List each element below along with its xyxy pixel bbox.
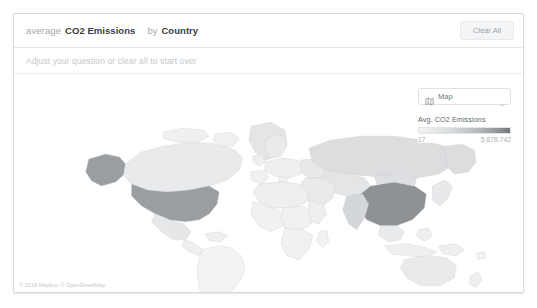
query-header: average CO2 Emissions by Country Clear A… [14, 14, 523, 48]
region-british-isles[interactable] [253, 154, 265, 166]
visualization-body: © 2019 Mapbox © OpenStreetMap Map [14, 74, 523, 292]
chevron-down-icon [499, 94, 505, 100]
world-map[interactable] [14, 74, 523, 292]
dimension-label[interactable]: Country [161, 25, 198, 36]
region-australia[interactable] [400, 256, 456, 286]
query-phrase[interactable]: average CO2 Emissions by Country [26, 25, 198, 36]
region-korea-japan[interactable] [432, 180, 452, 206]
aggregation-label[interactable]: average [26, 25, 61, 36]
visualization-type-select[interactable]: Map [418, 88, 511, 105]
region-caribbean[interactable] [205, 232, 227, 242]
region-russia-far-east[interactable] [444, 144, 476, 174]
region-southeast-asia[interactable] [379, 226, 405, 242]
region-alaska[interactable] [86, 154, 126, 186]
question-card: average CO2 Emissions by Country Clear A… [13, 13, 524, 293]
map-icon [425, 92, 434, 101]
region-madagascar[interactable] [317, 230, 329, 248]
clear-all-button[interactable]: Clear All [460, 21, 514, 40]
legend-max-value: 5,678,742 [481, 136, 511, 143]
map-legend: Avg. CO2 Emissions 17 5,678,742 [418, 112, 511, 143]
region-iberia[interactable] [251, 170, 269, 184]
metric-label[interactable]: CO2 Emissions [65, 25, 135, 36]
map-attribution[interactable]: © 2019 Mapbox © OpenStreetMap [19, 282, 105, 288]
hint-text: Adjust your question or clear all to sta… [26, 56, 197, 66]
visualization-type-label: Map [438, 92, 499, 101]
region-new-zealand[interactable] [469, 272, 482, 288]
region-india[interactable] [343, 194, 369, 230]
screen-root: average CO2 Emissions by Country Clear A… [0, 0, 537, 308]
region-north-africa[interactable] [253, 182, 309, 208]
legend-min-value: 17 [418, 136, 426, 143]
hint-bar: Adjust your question or clear all to sta… [14, 48, 523, 74]
world-map-svg[interactable] [14, 74, 523, 292]
region-south-america[interactable] [197, 246, 245, 292]
region-western-europe[interactable] [265, 158, 305, 178]
by-label: by [147, 25, 157, 36]
region-baffin[interactable] [213, 132, 239, 146]
region-china[interactable] [359, 182, 427, 226]
legend-scale: 17 5,678,742 [418, 136, 511, 143]
region-canada[interactable] [124, 142, 244, 192]
region-indonesia[interactable] [385, 244, 437, 258]
region-central-america[interactable] [181, 240, 203, 256]
legend-gradient-bar [418, 127, 511, 134]
region-new-guinea[interactable] [438, 244, 464, 256]
region-arctic-islands[interactable] [163, 128, 209, 142]
legend-title: Avg. CO2 Emissions [418, 115, 511, 124]
region-philippines[interactable] [416, 228, 432, 242]
region-pacific-islands[interactable] [476, 252, 486, 260]
region-southern-africa[interactable] [281, 228, 313, 260]
